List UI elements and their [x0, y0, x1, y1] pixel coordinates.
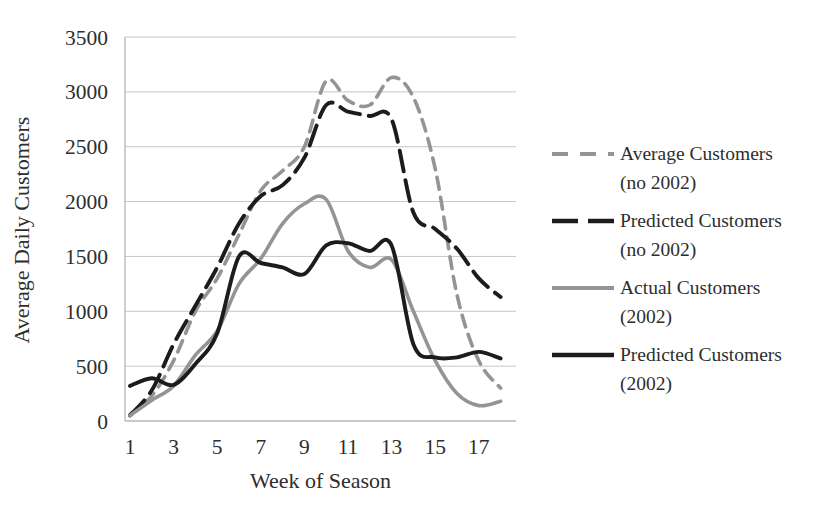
legend-label-line: (no 2002)	[620, 235, 782, 264]
x-tick-label: 9	[299, 435, 310, 459]
legend-label-line: Predicted Customers	[620, 206, 782, 235]
legend-label-line: (2002)	[620, 369, 782, 398]
y-tick-label: 3000	[65, 80, 108, 104]
legend-item: Average Customers(no 2002)	[551, 139, 782, 197]
legend-item: Predicted Customers(2002)	[551, 340, 782, 398]
legend-item-label: Actual Customers(2002)	[620, 273, 760, 331]
x-tick-label: 7	[255, 435, 266, 459]
x-tick-label: 15	[424, 435, 446, 459]
legend-item-label: Predicted Customers(2002)	[620, 340, 782, 398]
series-line-predicted-customers-2002	[130, 240, 501, 386]
average-daily-customers-chart: 0500100015002000250030003500135791113151…	[0, 0, 829, 519]
legend-marker-solid	[551, 340, 615, 369]
x-tick-label: 13	[381, 435, 403, 459]
legend-label-line: (no 2002)	[620, 168, 773, 197]
legend-marker-solid	[551, 273, 615, 302]
legend-label-line: Actual Customers	[620, 273, 760, 302]
x-tick-label: 17	[468, 435, 490, 459]
y-tick-label: 3500	[65, 26, 108, 50]
y-tick-label: 1000	[65, 300, 108, 324]
y-axis-title: Average Daily Customers	[8, 30, 36, 430]
legend-label-line: Predicted Customers	[620, 340, 782, 369]
y-tick-label: 0	[97, 410, 108, 434]
legend-label-line: (2002)	[620, 302, 760, 331]
legend-item: Actual Customers(2002)	[551, 273, 782, 331]
legend-marker-dashed	[551, 139, 615, 168]
x-axis-title: Week of Season	[125, 468, 516, 494]
y-tick-label: 2000	[65, 190, 108, 214]
legend-item: Predicted Customers(no 2002)	[551, 206, 782, 264]
chart-legend: Average Customers(no 2002)Predicted Cust…	[551, 139, 782, 398]
legend-label-line: Average Customers	[620, 139, 773, 168]
y-tick-label: 2500	[65, 135, 108, 159]
legend-item-label: Average Customers(no 2002)	[620, 139, 773, 197]
x-tick-label: 5	[212, 435, 223, 459]
legend-marker-long-dashed	[551, 206, 615, 235]
x-tick-label: 11	[338, 435, 359, 459]
legend-item-label: Predicted Customers(no 2002)	[620, 206, 782, 264]
y-tick-label: 1500	[65, 245, 108, 269]
x-tick-label: 3	[168, 435, 179, 459]
y-tick-label: 500	[76, 355, 108, 379]
x-tick-label: 1	[125, 435, 136, 459]
